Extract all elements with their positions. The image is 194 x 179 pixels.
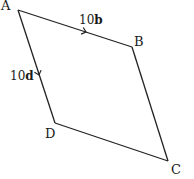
vertex-label-a: A	[0, 0, 11, 13]
parallelogram-diagram: A B D C 10b 10d	[0, 0, 194, 179]
edge-cd	[55, 123, 168, 161]
vertex-label-c: C	[171, 162, 181, 177]
vector-ad-coefficient: 10	[10, 69, 25, 83]
vector-label-ad: 10d	[10, 69, 34, 83]
vector-ab-coefficient: 10	[79, 13, 94, 27]
vector-label-ab: 10b	[79, 13, 103, 27]
vector-ab-symbol: b	[94, 13, 102, 27]
edge-da	[18, 10, 55, 123]
vector-ad-symbol: d	[25, 69, 34, 83]
edge-ab	[18, 10, 132, 47]
edge-bc	[132, 47, 168, 161]
vertex-label-d: D	[45, 126, 55, 141]
vertex-label-b: B	[134, 34, 144, 49]
